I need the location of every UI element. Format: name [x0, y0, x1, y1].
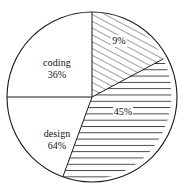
slice-label-nine-value: 9% [111, 35, 127, 47]
slice-label-coding-value: 36% [26, 69, 88, 81]
slice-label-design-name: design [26, 128, 88, 140]
slice-label-coding-name: coding [26, 57, 88, 69]
slice-label-coding: coding 36% [26, 57, 88, 80]
pie-chart: coding 36% design 64% 9% 45% [0, 0, 185, 193]
slice-label-design-value: 64% [26, 140, 88, 152]
slice-label-fortyfive-value: 45% [113, 106, 134, 118]
slice-label-nine: 9% [106, 35, 132, 47]
pie-chart-graphic [0, 0, 185, 193]
slice-label-fortyfive: 45% [108, 106, 138, 118]
slice-label-design: design 64% [26, 128, 88, 151]
